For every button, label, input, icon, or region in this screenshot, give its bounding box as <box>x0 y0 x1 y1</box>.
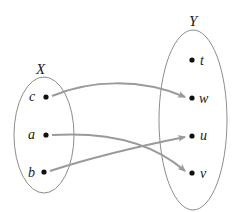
element-u-dot <box>189 133 194 138</box>
function-diagram: X c a b Y t w <box>0 0 234 212</box>
element-b-label: b <box>28 165 35 180</box>
element-w-dot <box>189 95 194 100</box>
element-c-dot <box>43 94 48 99</box>
element-w: w <box>189 91 209 106</box>
element-w-label: w <box>199 91 209 106</box>
element-b: b <box>28 165 47 180</box>
set-x-label: X <box>35 61 46 77</box>
arrow-b-to-u <box>50 137 185 171</box>
element-t-label: t <box>200 53 205 68</box>
diagram-svg: X c a b Y t w <box>0 0 234 212</box>
element-t-dot <box>189 57 194 62</box>
element-t: t <box>189 53 205 68</box>
element-u: u <box>189 128 207 143</box>
set-y: Y t w u v <box>159 13 227 210</box>
set-y-ellipse <box>159 30 227 210</box>
element-v-label: v <box>200 166 207 181</box>
element-b-dot <box>41 169 46 174</box>
element-c: c <box>29 89 49 104</box>
set-x: X c a b <box>14 61 74 193</box>
set-y-label: Y <box>189 13 199 29</box>
arrow-c-to-w <box>52 83 185 97</box>
element-v-dot <box>189 170 194 175</box>
element-a-label: a <box>28 127 35 142</box>
element-u-label: u <box>200 128 207 143</box>
element-c-label: c <box>29 89 36 104</box>
element-a: a <box>28 127 49 142</box>
element-a-dot <box>43 132 48 137</box>
mappings <box>50 83 185 171</box>
element-v: v <box>189 166 207 181</box>
